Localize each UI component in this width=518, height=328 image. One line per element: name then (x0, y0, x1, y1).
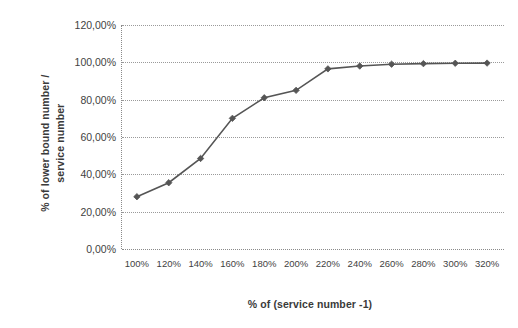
y-tick-label: 60,00% (56, 131, 116, 143)
y-axis-title-line-1: % of lower bound number / (38, 28, 53, 258)
y-tick-label: 20,00% (56, 206, 116, 218)
x-tick-label: 100% (125, 258, 149, 269)
x-tick-label: 160% (220, 258, 244, 269)
y-tick-label: 120,00% (56, 19, 116, 31)
y-axis-tick-labels: 0,00%20,00%40,00%60,00%80,00%100,00%120,… (52, 25, 116, 249)
x-tick-label: 280% (411, 258, 435, 269)
series-line (137, 63, 487, 197)
data-point-marker (134, 194, 140, 200)
line-chart: % of lower bound number / service number… (0, 0, 518, 328)
y-tick-label: 40,00% (56, 168, 116, 180)
x-axis-tick-labels: 100%120%140%160%180%200%220%240%260%280%… (121, 258, 503, 274)
y-tick-label: 100,00% (56, 56, 116, 68)
data-series-layer (121, 25, 503, 249)
x-tick-label: 300% (443, 258, 467, 269)
gridline-0,00% (122, 249, 504, 250)
x-tick-label: 320% (475, 258, 499, 269)
x-axis-title: % of (service number -1) (120, 298, 500, 310)
x-tick-label: 180% (252, 258, 276, 269)
data-point-marker (357, 63, 363, 69)
data-point-marker (484, 60, 490, 66)
plot-area-wrapper (121, 25, 503, 249)
data-point-marker (388, 61, 394, 67)
data-point-marker (420, 60, 426, 66)
x-tick-label: 240% (348, 258, 372, 269)
x-tick-label: 200% (284, 258, 308, 269)
x-tick-label: 120% (157, 258, 181, 269)
x-tick-label: 220% (316, 258, 340, 269)
y-tick-label: 80,00% (56, 94, 116, 106)
x-tick-label: 260% (379, 258, 403, 269)
data-point-marker (452, 60, 458, 66)
y-tick-label: 0,00% (56, 243, 116, 255)
x-tick-label: 140% (188, 258, 212, 269)
